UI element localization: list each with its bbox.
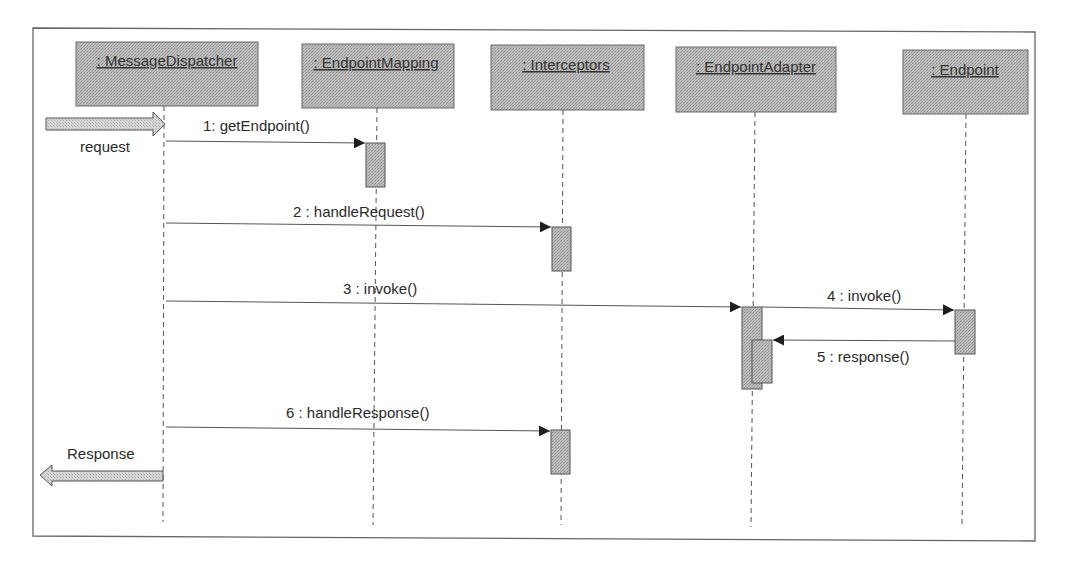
response-arrow: Response — [40, 445, 163, 486]
sequence-diagram: : MessageDispatcher : EndpointMapping : … — [0, 0, 1070, 565]
participant-label: : Endpoint — [931, 61, 999, 78]
message-label: 1: getEndpoint() — [203, 117, 310, 134]
message-response: 5 : response() — [773, 340, 955, 365]
message-get-endpoint: 1: getEndpoint() — [166, 117, 365, 143]
response-label: Response — [67, 445, 135, 462]
response-arrow-icon — [40, 465, 163, 486]
lifeline — [163, 106, 164, 522]
request-arrow: request — [46, 112, 165, 155]
message-label: 3 : invoke() — [343, 280, 417, 297]
activation-endpoint — [955, 310, 975, 354]
participant-endpoint: : Endpoint — [903, 50, 1028, 528]
message-invoke-adapter: 3 : invoke() — [166, 280, 741, 307]
message-label: 5 : response() — [817, 348, 910, 365]
participant-label: : EndpointAdapter — [696, 58, 816, 75]
participant-label: : EndpointMapping — [313, 54, 438, 71]
activation-interceptors-response — [551, 430, 570, 474]
message-invoke-endpoint: 4 : invoke() — [762, 287, 954, 310]
message-handle-request: 2 : handleRequest() — [166, 203, 551, 227]
message-handle-response: 6 : handleResponse() — [166, 404, 550, 431]
request-label: request — [80, 138, 131, 155]
participant-endpoint-adapter: : EndpointAdapter — [676, 47, 836, 527]
activation-mapping — [366, 143, 385, 187]
activation-adapter-inner — [752, 340, 772, 383]
activation-interceptors-request — [552, 227, 571, 271]
message-label: 6 : handleResponse() — [286, 404, 429, 421]
message-label: 4 : invoke() — [827, 287, 901, 304]
request-arrow-icon — [46, 112, 165, 136]
participant-label: : MessageDispatcher — [97, 52, 238, 69]
participant-label: : Interceptors — [522, 56, 610, 73]
message-label: 2 : handleRequest() — [293, 203, 425, 220]
